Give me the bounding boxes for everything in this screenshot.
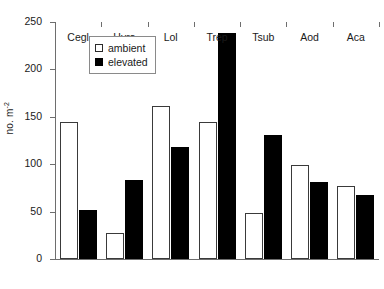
y-axis-tick: 50 <box>50 212 55 213</box>
y-axis-tick-label: 50 <box>30 205 42 217</box>
y-axis-tick-label: 0 <box>36 252 42 264</box>
x-axis-tick-label: Cegl <box>67 31 89 43</box>
y-axis-tick: 100 <box>50 164 55 165</box>
bar-elevated <box>218 33 236 259</box>
legend-item-elevated: elevated <box>95 55 148 69</box>
x-axis-tick-label: Aca <box>347 31 365 43</box>
x-axis-tick <box>194 22 195 27</box>
legend-item-ambient: ambient <box>95 41 148 55</box>
x-axis-tick <box>379 22 380 27</box>
x-axis-tick <box>333 22 334 27</box>
y-axis-tick: 0 <box>50 259 55 260</box>
x-axis-tick-label: Lol <box>164 31 178 43</box>
bar-ambient <box>199 122 217 259</box>
bar-elevated <box>79 210 97 259</box>
bar-elevated <box>171 147 189 259</box>
y-axis-tick: 150 <box>50 117 55 118</box>
bar-elevated <box>310 182 328 259</box>
y-axis-title-base: no. m <box>4 109 15 135</box>
x-axis-tick <box>148 22 149 27</box>
x-axis-line <box>55 259 379 260</box>
y-axis-tick-label: 150 <box>24 110 42 122</box>
x-axis-tick-label: Tsub <box>252 31 274 43</box>
y-axis-tick-label: 250 <box>24 15 42 27</box>
bar-ambient <box>337 186 355 259</box>
y-axis-title: no. m-2 <box>0 0 18 237</box>
x-axis-tick <box>240 22 241 27</box>
x-axis-tick <box>55 22 56 27</box>
bar-elevated <box>264 135 282 259</box>
bar-ambient <box>245 213 263 259</box>
bar-ambient <box>291 165 309 259</box>
bar-elevated <box>356 195 374 259</box>
bar-elevated <box>125 180 143 259</box>
legend-label-elevated: elevated <box>108 56 148 68</box>
x-axis-tick <box>286 22 287 27</box>
y-axis-tick-label: 100 <box>24 157 42 169</box>
legend-label-ambient: ambient <box>108 42 145 54</box>
x-axis-tick <box>101 22 102 27</box>
legend-swatch-elevated-icon <box>95 58 103 66</box>
y-axis-tick: 200 <box>50 69 55 70</box>
y-axis-tick-label: 200 <box>24 62 42 74</box>
y-axis-title-exponent: -2 <box>3 102 10 109</box>
legend: ambient elevated <box>89 36 156 74</box>
x-axis-tick-label: Trep <box>206 31 227 43</box>
bar-ambient <box>106 233 124 259</box>
legend-swatch-ambient-icon <box>95 44 103 52</box>
bar-ambient <box>152 106 170 259</box>
bar-ambient <box>60 122 78 259</box>
x-axis-tick-label: Aod <box>300 31 319 43</box>
bar-chart: no. m-2 050100150200250 CeglHyraLolTrepT… <box>0 0 384 289</box>
